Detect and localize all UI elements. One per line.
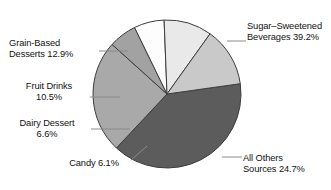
- slice-label-all-other-sources: All Others Sources 24.7%: [243, 153, 305, 176]
- slice-label-line2: Desserts 12.9%: [9, 49, 97, 60]
- slice-label-line2: Beverages 39.2%: [247, 32, 322, 43]
- slice-label-grain-based-desserts: Grain-Based Desserts 12.9%: [9, 38, 97, 61]
- slice-label-fruit-drinks: Fruit Drinks 10.5%: [10, 81, 88, 104]
- slice-label-line1: Fruit Drinks: [26, 81, 72, 91]
- slice-label-sugar-sweetened-beverages: Sugar–Sweetened Beverages 39.2%: [247, 21, 322, 44]
- pie-chart-figure: Sugar–Sweetened Beverages 39.2% All Othe…: [0, 0, 331, 190]
- pie-slice-group: [93, 20, 241, 168]
- slice-label-line1: All Others: [243, 153, 283, 163]
- slice-label-line2: 6.6%: [5, 129, 89, 140]
- slice-label-line1: Candy 6.1%: [69, 158, 119, 168]
- slice-label-candy: Candy 6.1%: [56, 158, 132, 169]
- slice-label-line1: Dairy Dessert: [19, 118, 74, 128]
- slice-label-dairy-dessert: Dairy Dessert 6.6%: [5, 118, 89, 141]
- slice-label-line1: Sugar–Sweetened: [247, 21, 322, 31]
- slice-label-line2: Sources 24.7%: [243, 164, 305, 175]
- slice-label-line1: Grain-Based: [9, 38, 60, 48]
- slice-label-line2: 10.5%: [10, 92, 88, 103]
